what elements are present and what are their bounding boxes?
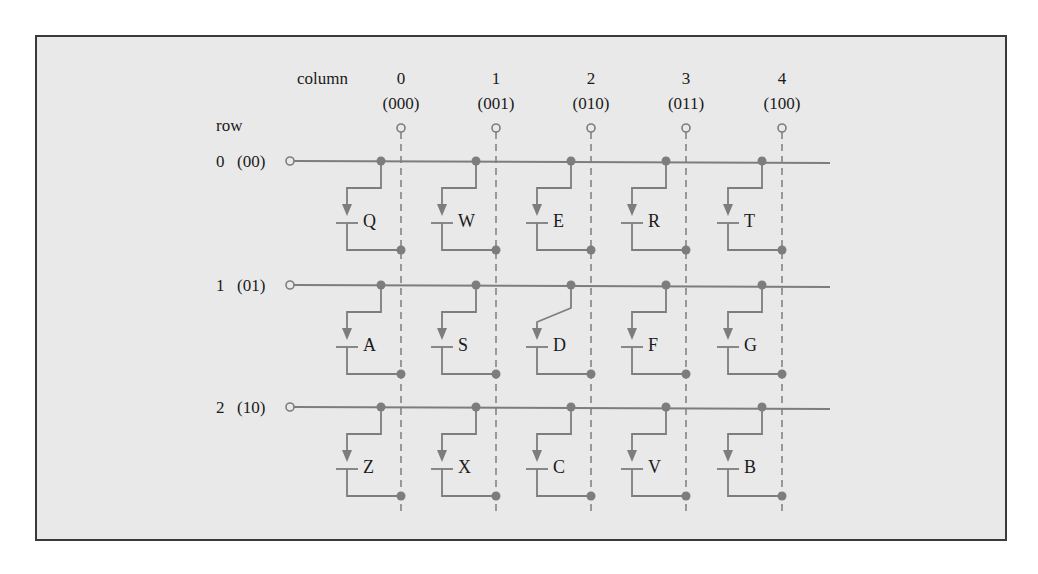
column-junction-dot	[587, 370, 596, 379]
key-switch-a[interactable]: A	[336, 281, 406, 379]
contact-wire	[442, 285, 476, 330]
column-junction-dot	[587, 492, 596, 501]
row-line	[294, 161, 830, 163]
return-wire	[632, 347, 686, 374]
column-4: 4(100)	[764, 69, 801, 515]
key-label: B	[744, 457, 756, 477]
keyboard-matrix-diagram: column row 0(000)1(001)2(010)3(011)4(100…	[0, 0, 1038, 574]
arrow-down-icon	[723, 450, 733, 462]
key-label: R	[648, 211, 660, 231]
key-switch-c[interactable]: C	[526, 403, 596, 501]
contact-wire	[347, 161, 381, 206]
row-code-label: (01)	[237, 276, 265, 295]
key-switch-s[interactable]: S	[431, 281, 501, 379]
key-label: X	[458, 457, 471, 477]
column-junction-dot	[492, 246, 501, 255]
contact-wire	[537, 161, 571, 206]
arrow-down-icon	[532, 204, 542, 216]
column-0: 0(000)	[383, 69, 420, 515]
arrow-down-icon	[437, 204, 447, 216]
key-switch-q[interactable]: Q	[336, 157, 406, 255]
arrow-down-icon	[532, 450, 542, 462]
column-code-label: (100)	[764, 94, 801, 113]
key-label: V	[648, 457, 661, 477]
key-label: C	[553, 457, 565, 477]
key-switch-d[interactable]: D	[526, 281, 596, 379]
column-junction-dot	[397, 370, 406, 379]
column-terminal-icon	[587, 124, 595, 132]
contact-wire	[632, 407, 666, 452]
closed-contact-wire	[537, 285, 571, 338]
column-junction-dot	[682, 246, 691, 255]
contact-wire	[442, 161, 476, 206]
column-3: 3(011)	[668, 69, 704, 515]
key-switch-g[interactable]: G	[717, 281, 787, 379]
arrow-down-icon	[342, 450, 352, 462]
key-label: Q	[363, 211, 376, 231]
key-switch-r[interactable]: R	[621, 157, 691, 255]
arrow-down-icon	[627, 450, 637, 462]
key-label: D	[553, 335, 566, 355]
column-index-label: 3	[682, 69, 691, 88]
return-wire	[442, 347, 496, 374]
row-line	[294, 407, 830, 409]
row-code-label: (10)	[237, 398, 265, 417]
column-index-label: 2	[587, 69, 596, 88]
row-0: 0(00)	[216, 152, 830, 171]
column-junction-dot	[778, 492, 787, 501]
column-terminal-icon	[682, 124, 690, 132]
contact-wire	[632, 161, 666, 206]
row-1: 1(01)	[216, 276, 830, 295]
column-terminal-icon	[397, 124, 405, 132]
row-index-label: 2	[216, 398, 225, 417]
row-2: 2(10)	[216, 398, 830, 417]
contact-wire	[728, 285, 762, 330]
contact-wire	[442, 407, 476, 452]
row-index-label: 1	[216, 276, 225, 295]
column-junction-dot	[778, 370, 787, 379]
key-switch-t[interactable]: T	[717, 157, 787, 255]
column-1: 1(001)	[478, 69, 515, 515]
key-label: T	[744, 211, 755, 231]
arrow-down-icon	[627, 204, 637, 216]
column-terminal-icon	[492, 124, 500, 132]
contact-wire	[537, 407, 571, 452]
column-2: 2(010)	[573, 69, 610, 515]
column-index-label: 4	[778, 69, 787, 88]
arrow-down-icon	[532, 328, 542, 340]
column-junction-dot	[492, 370, 501, 379]
column-junction-dot	[587, 246, 596, 255]
key-switch-w[interactable]: W	[431, 157, 501, 255]
key-switch-x[interactable]: X	[431, 403, 501, 501]
contact-wire	[347, 407, 381, 452]
arrow-down-icon	[723, 204, 733, 216]
column-junction-dot	[397, 492, 406, 501]
row-terminal-icon	[286, 281, 294, 289]
row-terminal-icon	[286, 403, 294, 411]
key-switch-v[interactable]: V	[621, 403, 691, 501]
column-junction-dot	[778, 246, 787, 255]
contact-wire	[632, 285, 666, 330]
key-label: W	[458, 211, 475, 231]
arrow-down-icon	[437, 450, 447, 462]
key-switch-f[interactable]: F	[621, 281, 691, 379]
key-switch-b[interactable]: B	[717, 403, 787, 501]
key-label: E	[553, 211, 564, 231]
column-junction-dot	[682, 492, 691, 501]
key-label: F	[648, 335, 658, 355]
contact-wire	[728, 161, 762, 206]
return-wire	[537, 223, 591, 250]
row-terminal-icon	[286, 157, 294, 165]
row-code-label: (00)	[237, 152, 265, 171]
key-switch-e[interactable]: E	[526, 157, 596, 255]
column-header-label: column	[297, 69, 348, 88]
key-switch-z[interactable]: Z	[336, 403, 406, 501]
row-header-label: row	[216, 116, 243, 135]
arrow-down-icon	[723, 328, 733, 340]
key-label: G	[744, 335, 757, 355]
column-index-label: 1	[492, 69, 501, 88]
column-index-label: 0	[397, 69, 406, 88]
contact-wire	[347, 285, 381, 330]
key-label: S	[458, 335, 468, 355]
column-terminal-icon	[778, 124, 786, 132]
